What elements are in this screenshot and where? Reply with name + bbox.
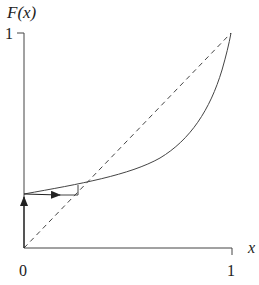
diagonal-line — [24, 33, 231, 248]
cobweb-path — [24, 185, 78, 248]
x-tick-label-0: 0 — [19, 262, 27, 279]
cobweb-horizontal-arrow — [24, 194, 60, 195]
cobweb-diagram: F(x) 1 0 1 x — [0, 0, 259, 285]
y-tick-label-1: 1 — [5, 25, 13, 42]
function-curve — [24, 33, 231, 194]
x-tick-label-1: 1 — [227, 262, 235, 279]
y-axis-label: F(x) — [6, 3, 37, 22]
x-axis-label: x — [247, 239, 255, 256]
